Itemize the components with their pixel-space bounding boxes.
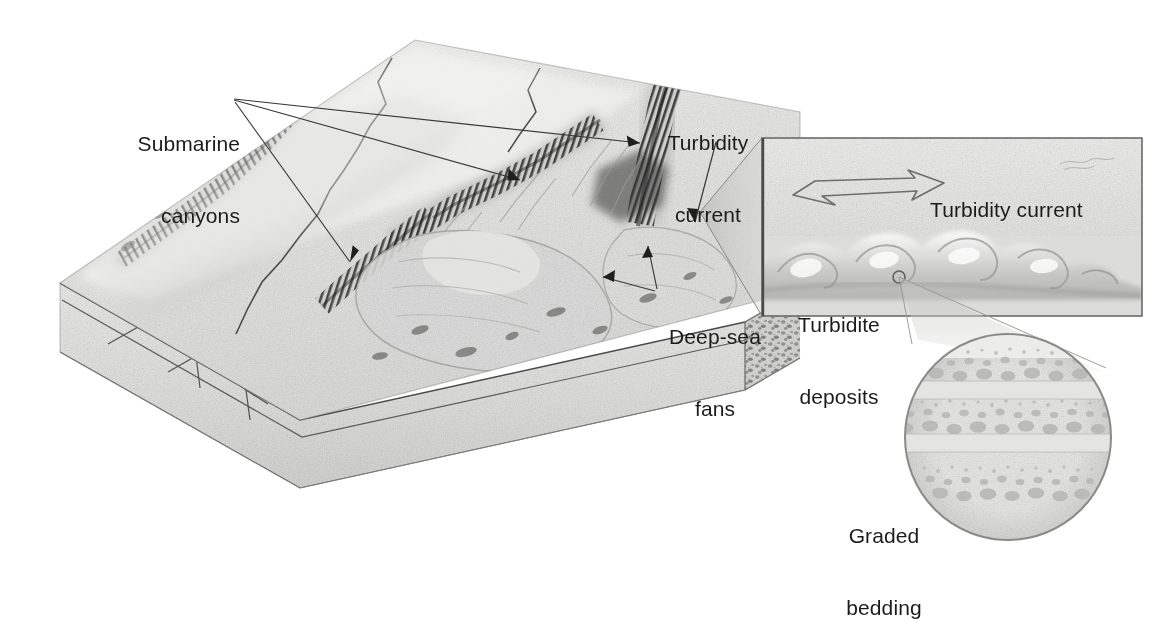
label-turbidity-current-main: Turbidity current <box>648 83 768 275</box>
label-deep-sea-fans-line1: Deep-sea <box>655 325 775 349</box>
label-deep-sea-fans: Deep-sea fans <box>655 277 775 469</box>
label-turbidite-deposits-line1: Turbidite <box>780 313 898 337</box>
label-turbidity-current-inset: Turbidity current <box>930 198 1083 222</box>
label-submarine-canyons-line2: canyons <box>50 204 240 228</box>
label-deep-sea-fans-line2: fans <box>655 397 775 421</box>
label-submarine-canyons-line1: Submarine <box>50 132 240 156</box>
label-turbidite-deposits-line2: deposits <box>780 385 898 409</box>
label-submarine-canyons: Submarine canyons <box>50 84 240 276</box>
label-turbidite-deposits: Turbidite deposits <box>780 265 898 457</box>
label-graded-bedding: Graded bedding <box>825 476 943 623</box>
label-turbidity-current-main-line1: Turbidity <box>648 131 768 155</box>
label-turbidity-current-main-line2: current <box>648 203 768 227</box>
label-graded-bedding-line2: bedding <box>825 596 943 620</box>
label-graded-bedding-line1: Graded <box>825 524 943 548</box>
